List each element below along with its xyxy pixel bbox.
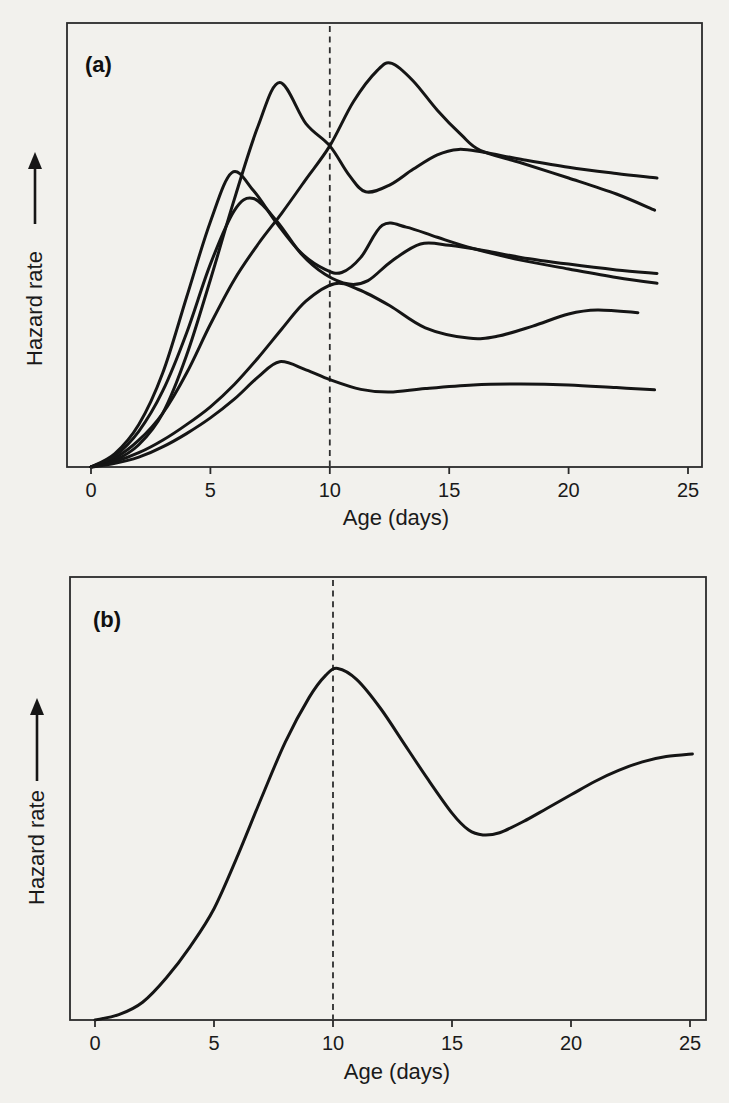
panel-label-a: (a) xyxy=(85,52,112,77)
x-tick-label: 0 xyxy=(89,1032,100,1054)
hazard-curve-b-1 xyxy=(95,668,692,1020)
y-axis-label: Hazard rate xyxy=(22,251,47,366)
plot-frame xyxy=(70,577,706,1020)
x-tick-label: 10 xyxy=(319,479,341,501)
x-axis-label: Age (days) xyxy=(343,505,449,530)
curves-layer xyxy=(95,668,692,1020)
y-axis-label: Hazard rate xyxy=(24,790,49,905)
x-axis-ticks: 0510152025 xyxy=(89,1020,701,1054)
x-tick-label: 25 xyxy=(679,1032,701,1054)
plot-frame xyxy=(67,23,702,467)
hazard-curve-a-6 xyxy=(91,362,655,467)
y-axis-up-arrow-icon xyxy=(30,698,44,781)
panel-label-b: (b) xyxy=(93,607,121,632)
panel-b-plot: 0510152025 Hazard rate (b) Age (days) xyxy=(0,553,729,1103)
x-tick-label: 15 xyxy=(438,479,460,501)
x-tick-label: 10 xyxy=(322,1032,344,1054)
x-tick-label: 20 xyxy=(557,479,579,501)
curves-layer xyxy=(91,63,657,467)
x-tick-label: 5 xyxy=(208,1032,219,1054)
panel-a-plot: 0510152025 Hazard rate (a) Age (days) xyxy=(0,0,729,553)
x-tick-label: 25 xyxy=(677,479,699,501)
hazard-curve-a-5 xyxy=(91,283,638,467)
x-tick-label: 20 xyxy=(560,1032,582,1054)
y-axis-up-arrow-icon xyxy=(28,152,42,224)
scanned-figure-page: { "page": { "background_color": "#f2f1ed… xyxy=(0,0,729,1103)
x-tick-label: 0 xyxy=(85,479,96,501)
x-tick-label: 5 xyxy=(205,479,216,501)
x-axis-label: Age (days) xyxy=(344,1059,450,1084)
x-axis-ticks: 0510152025 xyxy=(85,467,699,501)
x-tick-label: 15 xyxy=(441,1032,463,1054)
hazard-curve-a-3 xyxy=(91,172,657,467)
